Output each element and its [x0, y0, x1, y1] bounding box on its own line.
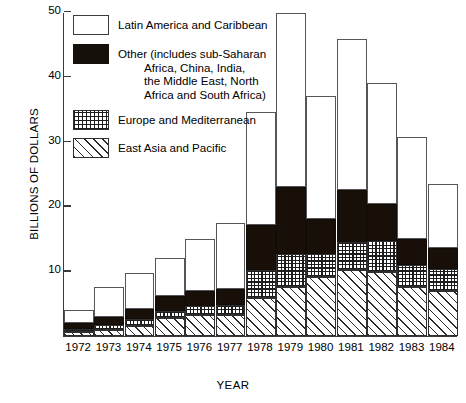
- segment-other-1975: [155, 296, 185, 310]
- x-tick-label-1980: 1980: [305, 341, 335, 353]
- legend: Latin America and Caribbean Other (inclu…: [73, 15, 373, 158]
- segment-latin-1983: [397, 137, 427, 239]
- x-axis-title: YEAR: [0, 379, 466, 391]
- segment-latin-1975: [155, 258, 185, 296]
- legend-label-europe: Europe and Mediterranean: [118, 113, 256, 126]
- bar-1972: [64, 310, 94, 336]
- segment-other-1974: [125, 309, 155, 319]
- segment-eastasia-1980: [306, 277, 336, 336]
- segment-eastasia-1984: [428, 291, 458, 336]
- y-tick-label: 40: [48, 69, 61, 81]
- legend-item-other: Other (includes sub-Saharan Africa, Chin…: [73, 44, 373, 101]
- segment-other-1981: [337, 190, 367, 242]
- x-tick-label-1979: 1979: [275, 341, 305, 353]
- legend-label-latin: Latin America and Caribbean: [118, 18, 268, 31]
- y-axis-title: BILLIONS OF DOLLARS: [28, 64, 40, 284]
- y-tick-label: 30: [48, 134, 61, 146]
- segment-europe-1979: [276, 254, 306, 286]
- x-tick-label-1982: 1982: [366, 341, 396, 353]
- segment-europe-1972: [64, 329, 94, 332]
- segment-europe-1984: [428, 269, 458, 290]
- bar-1976: [185, 239, 215, 336]
- legend-swatch-latin-icon: [73, 15, 109, 35]
- bar-1975: [155, 258, 185, 336]
- segment-eastasia-1978: [246, 298, 276, 336]
- legend-swatch-other-icon: [73, 44, 109, 64]
- bar-1983: [397, 137, 427, 336]
- segment-other-1972: [64, 323, 94, 329]
- segment-other-1976: [185, 291, 215, 305]
- segment-europe-1975: [155, 311, 185, 318]
- segment-europe-1976: [185, 306, 215, 316]
- legend-label-eastasia: East Asia and Pacific: [118, 141, 226, 154]
- legend-swatch-europe-icon: [73, 110, 109, 130]
- segment-europe-1973: [94, 325, 124, 330]
- segment-other-1977: [216, 289, 246, 305]
- segment-latin-1973: [94, 287, 124, 316]
- bar-1973: [94, 287, 124, 336]
- legend-label-other: Other (includes sub-Saharan: [118, 47, 266, 60]
- segment-europe-1980: [306, 254, 336, 277]
- x-tick-label-1978: 1978: [245, 341, 275, 353]
- stacked-bar-chart: BILLIONS OF DOLLARS 1020304050 197219731…: [0, 0, 466, 403]
- x-tick-label-1977: 1977: [215, 341, 245, 353]
- segment-other-1973: [94, 317, 124, 325]
- segment-eastasia-1983: [397, 287, 427, 336]
- segment-eastasia-1982: [367, 272, 397, 336]
- segment-europe-1982: [367, 241, 397, 272]
- bar-1984: [428, 184, 458, 336]
- segment-other-1984: [428, 248, 458, 269]
- segment-eastasia-1972: [64, 332, 94, 336]
- x-tick-label-1984: 1984: [427, 341, 457, 353]
- segment-europe-1981: [337, 242, 367, 270]
- segment-europe-1978: [246, 270, 276, 299]
- x-tick-label-1973: 1973: [93, 341, 123, 353]
- segment-europe-1983: [397, 265, 427, 286]
- segment-latin-1972: [64, 310, 94, 323]
- segment-latin-1976: [185, 239, 215, 291]
- segment-europe-1977: [216, 305, 246, 315]
- segment-latin-1974: [125, 273, 155, 309]
- segment-other-1980: [306, 219, 336, 254]
- y-tick-label: 50: [48, 4, 61, 16]
- x-tick-label-1983: 1983: [396, 341, 426, 353]
- y-tick-label: 10: [48, 263, 61, 275]
- segment-eastasia-1975: [155, 318, 185, 336]
- segment-eastasia-1976: [185, 315, 215, 336]
- segment-latin-1977: [216, 223, 246, 288]
- segment-latin-1984: [428, 184, 458, 248]
- legend-label-other-line3: the Middle East, North: [118, 74, 266, 88]
- segment-eastasia-1973: [94, 330, 124, 336]
- y-tick-label: 20: [48, 198, 61, 210]
- legend-label-other-line2: Africa, China, India,: [118, 61, 266, 75]
- segment-europe-1974: [125, 319, 155, 325]
- legend-item-eastasia: East Asia and Pacific: [73, 138, 373, 158]
- segment-other-1978: [246, 225, 276, 270]
- legend-swatch-eastasia-icon: [73, 138, 109, 158]
- x-tick-label-1981: 1981: [336, 341, 366, 353]
- segment-eastasia-1981: [337, 270, 367, 336]
- x-tick-label-1976: 1976: [184, 341, 214, 353]
- segment-eastasia-1974: [125, 326, 155, 336]
- x-tick-label-1974: 1974: [124, 341, 154, 353]
- x-tick-label-1975: 1975: [154, 341, 184, 353]
- legend-item-europe: Europe and Mediterranean: [73, 110, 373, 130]
- bar-1974: [125, 273, 155, 337]
- x-tick-label-1972: 1972: [63, 341, 93, 353]
- segment-eastasia-1977: [216, 315, 246, 336]
- segment-eastasia-1979: [276, 287, 306, 336]
- bar-1977: [216, 223, 246, 336]
- segment-other-1982: [367, 204, 397, 240]
- segment-other-1979: [276, 187, 306, 254]
- segment-other-1983: [397, 239, 427, 266]
- legend-label-other-line4: Africa and South Africa): [118, 88, 266, 102]
- legend-item-latin: Latin America and Caribbean: [73, 15, 373, 35]
